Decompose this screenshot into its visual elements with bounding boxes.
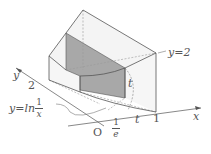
y-axis-label: y bbox=[13, 70, 19, 81]
curve-label: y=ln1x bbox=[9, 98, 43, 119]
solid-diagram: y 2 x 1 t O 1e y=2 t y=ln1x bbox=[0, 0, 211, 154]
height-label: t bbox=[128, 78, 132, 89]
x-tick-1: 1 bbox=[153, 113, 160, 124]
plane-leader bbox=[158, 51, 166, 53]
x-tick-t: t bbox=[135, 114, 139, 125]
diagram-drawing bbox=[0, 0, 211, 154]
x-axis-label: x bbox=[193, 111, 199, 122]
x-tick-1-over-e: 1e bbox=[112, 118, 120, 139]
origin-label: O bbox=[93, 127, 102, 138]
y-tick-2: 2 bbox=[28, 80, 35, 91]
curve-leader bbox=[56, 104, 106, 115]
plane-label: y=2 bbox=[168, 47, 190, 58]
